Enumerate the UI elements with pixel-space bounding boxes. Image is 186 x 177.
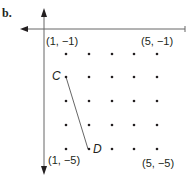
x-axis-arrow-icon [20, 26, 28, 32]
point-c-label: C [52, 69, 61, 83]
y-axis-up-arrow-icon [41, 8, 47, 17]
y-axis-down-arrow-icon [41, 166, 47, 175]
grid-dots [65, 53, 159, 151]
point-d-label: D [93, 142, 102, 156]
label-5-neg5: (5, −5) [142, 157, 174, 169]
segment-cd [66, 77, 88, 149]
label-1-neg5: (1, −5) [48, 154, 80, 166]
label-5-neg1: (5, −1) [141, 35, 173, 47]
label-1-neg1: (1, −1) [46, 35, 78, 47]
